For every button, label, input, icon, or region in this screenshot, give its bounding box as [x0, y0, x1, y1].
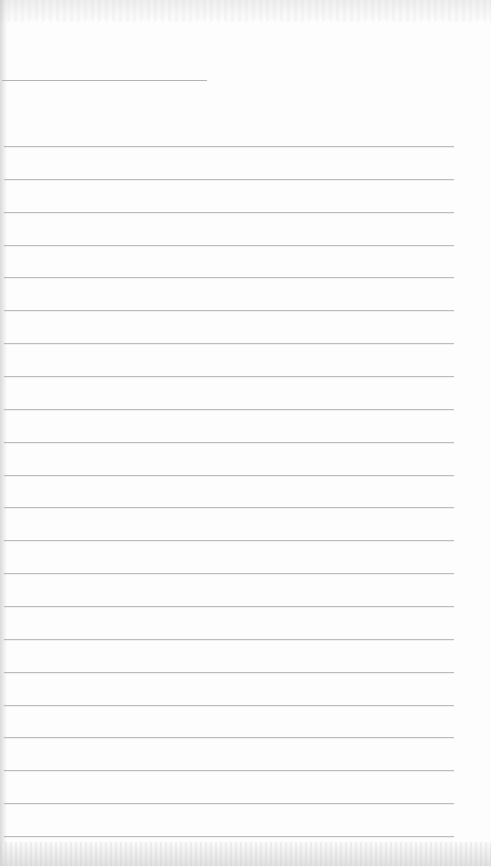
ruled-line: [4, 573, 454, 574]
ruled-line: [4, 606, 454, 607]
ruled-line: [4, 277, 454, 278]
ruled-line: [4, 803, 454, 804]
ruled-line: [4, 672, 454, 673]
ruled-line: [4, 540, 454, 541]
ruled-line: [4, 343, 454, 344]
ruled-line: [4, 376, 454, 377]
ruled-line: [4, 507, 454, 508]
ruled-line: [4, 442, 454, 443]
ruled-line: [4, 146, 454, 147]
ruled-line: [4, 310, 454, 311]
ruled-line: [4, 409, 454, 410]
ruled-line: [4, 836, 454, 837]
ruled-line: [4, 705, 454, 706]
ruled-line: [4, 475, 454, 476]
ruled-line: [4, 770, 454, 771]
lined-paper-page: [0, 0, 491, 866]
ruled-line: [4, 179, 454, 180]
header-underline: [2, 80, 207, 81]
ruled-line: [4, 639, 454, 640]
ruled-line: [4, 212, 454, 213]
scan-noise-bottom-band: [0, 842, 491, 866]
ruled-line: [4, 737, 454, 738]
scan-noise-top-band: [0, 0, 491, 22]
ruled-line: [4, 245, 454, 246]
